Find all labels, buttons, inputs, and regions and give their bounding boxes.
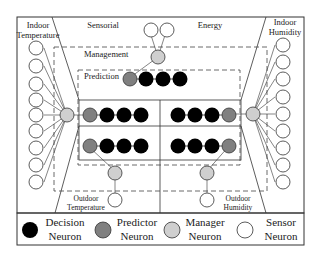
- energy-sensors: [144, 23, 174, 37]
- label-indoor-humidity-2: Humidity: [269, 27, 302, 37]
- legend-sensor-line2: Neuron: [265, 230, 298, 242]
- label-outdoor-humidity-1: Outdoor: [226, 194, 252, 203]
- legend-decision-line1: Decision: [45, 216, 85, 228]
- label-outdoor-humidity-2: Humidity: [224, 203, 253, 212]
- legend: Decision Neuron Predictor Neuron Manager…: [22, 216, 298, 242]
- label-indoor-temperature-1: Indoor: [27, 20, 50, 30]
- legend-manager-icon: [164, 222, 180, 238]
- legend-decision-line2: Neuron: [49, 230, 82, 242]
- indoor-humidity-sensors: [276, 38, 290, 189]
- label-indoor-temperature-2: Temperature: [17, 30, 60, 40]
- neural-architecture-diagram: Indoor Temperature Sensorial Energy Indo…: [0, 0, 319, 255]
- legend-sensor-line1: Sensor: [266, 216, 296, 228]
- indoor-temperature-sensors: [29, 41, 43, 189]
- decision-neurons: [100, 72, 220, 154]
- label-energy: Energy: [198, 20, 223, 30]
- legend-decision-icon: [22, 222, 38, 238]
- label-management: Management: [84, 49, 129, 59]
- label-outdoor-temperature-2: Temperature: [67, 203, 105, 212]
- legend-predictor-line2: Neuron: [121, 230, 154, 242]
- label-prediction: Prediction: [84, 71, 120, 81]
- label-indoor-humidity-1: Indoor: [274, 17, 297, 27]
- label-sensorial: Sensorial: [87, 20, 119, 30]
- legend-predictor-icon: [95, 222, 111, 238]
- legend-predictor-line1: Predictor: [117, 216, 158, 228]
- label-outdoor-temperature-1: Outdoor: [74, 194, 100, 203]
- outdoor-sensors: [108, 193, 214, 207]
- legend-sensor-icon: [237, 222, 253, 238]
- legend-manager-line2: Neuron: [189, 230, 222, 242]
- divider-right-top: [241, 17, 266, 100]
- legend-manager-line1: Manager: [185, 216, 224, 228]
